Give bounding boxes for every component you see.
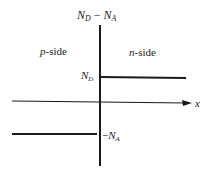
p-side-label: p-side <box>39 45 67 57</box>
doping-profile-diagram: ND−NA p-side n-side ND −NA x <box>0 0 210 176</box>
nd-level-label: ND <box>80 69 93 83</box>
y-axis-label: ND−NA <box>76 8 117 23</box>
x-axis-arrow-icon <box>182 100 192 106</box>
nd-level-line <box>100 77 186 78</box>
na-level-label: −NA <box>102 129 121 143</box>
x-axis-label: x <box>194 97 200 109</box>
n-side-label: n-side <box>129 46 156 58</box>
